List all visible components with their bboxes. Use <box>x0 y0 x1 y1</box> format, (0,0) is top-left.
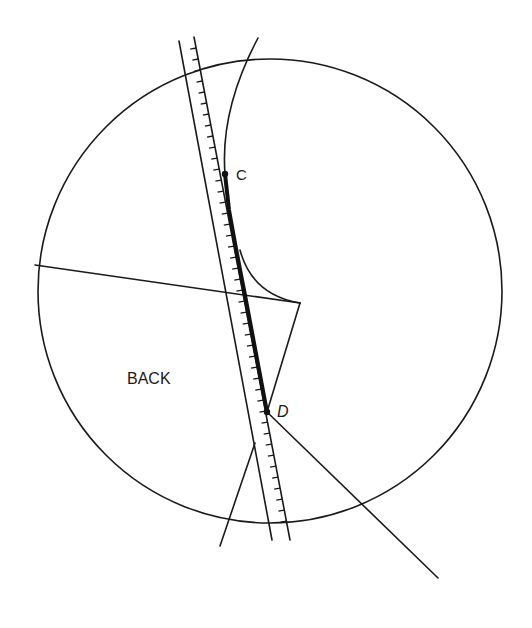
label-c: C <box>236 166 247 183</box>
ruler-tick <box>276 499 282 500</box>
ruler-tick <box>230 257 236 258</box>
ruler-tick <box>251 367 257 368</box>
ruler-tick <box>226 235 232 236</box>
ruler-tick <box>205 125 211 126</box>
ruler-tick <box>190 48 196 49</box>
ruler-tick <box>203 114 209 115</box>
ruler-tick <box>224 224 230 225</box>
ruler-ticks <box>190 48 286 522</box>
ruler-tick <box>232 268 238 269</box>
ruler-tick <box>243 323 249 324</box>
ruler-tick <box>270 466 276 467</box>
d-to-lower-right-line <box>267 412 438 578</box>
ruler-tick <box>207 136 213 137</box>
point-d-marker <box>264 409 270 415</box>
label-back: BACK <box>127 370 171 387</box>
ruler-tick <box>255 389 261 390</box>
ruler-tick <box>215 180 221 181</box>
ruler-tick <box>234 279 240 280</box>
circle-outline <box>38 59 502 523</box>
pattern-drafting-diagram: C D BACK <box>0 0 532 628</box>
vertex-to-d-line <box>267 303 300 412</box>
ruler-left-edge <box>179 41 272 540</box>
ruler-tick <box>262 422 268 423</box>
ruler-tick <box>249 356 255 357</box>
ruler-tick <box>194 70 200 71</box>
ruler-tick <box>222 213 228 214</box>
ruler-tick <box>247 345 253 346</box>
ruler-tick <box>236 290 242 291</box>
ruler-tick <box>211 158 217 159</box>
ruler-tick <box>278 510 284 511</box>
ruler-tick <box>245 334 251 335</box>
ruler-tick <box>228 246 234 247</box>
ruler-tick <box>257 400 263 401</box>
point-c-marker <box>222 171 228 177</box>
armhole-arc-upper <box>224 38 258 174</box>
ruler-tick <box>218 191 224 192</box>
ruler-tick <box>268 455 274 456</box>
ruler-tick <box>238 301 244 302</box>
ruler-tick <box>264 433 270 434</box>
ruler-tick <box>272 477 278 478</box>
ruler-tick <box>199 92 205 93</box>
lower-left-line <box>220 443 255 546</box>
ruler-tick <box>197 81 203 82</box>
ruler-tick <box>241 312 247 313</box>
ruler-tick <box>209 147 215 148</box>
ruler-tick <box>220 202 226 203</box>
ruler-tick <box>266 444 272 445</box>
ruler-tick <box>213 169 219 170</box>
ruler-tick <box>253 378 259 379</box>
label-d: D <box>277 403 289 420</box>
ruler-tick <box>274 488 280 489</box>
ruler-tick <box>192 59 198 60</box>
ruler-tick <box>201 103 207 104</box>
